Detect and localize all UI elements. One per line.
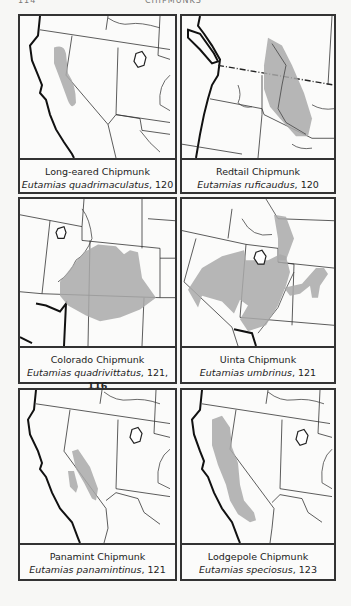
- map-svg: [20, 390, 175, 543]
- map-caption: Long-eared Chipmunk Eutamias quadrimacul…: [20, 158, 175, 192]
- range-map-panel-long-eared: Long-eared Chipmunk Eutamias quadrimacul…: [18, 14, 177, 194]
- common-name: Uinta Chipmunk: [182, 353, 334, 366]
- common-name: Colorado Chipmunk: [20, 353, 175, 366]
- scientific-name-line: Eutamias quadrimaculatus, 120: [20, 178, 175, 191]
- range-map: [20, 199, 175, 346]
- scientific-name: Eutamias umbrinus: [200, 367, 292, 378]
- range-map-panel-uinta: Uinta Chipmunk Eutamias umbrinus, 121: [180, 197, 336, 384]
- scientific-name: Eutamias panamintinus: [29, 564, 141, 575]
- scientific-name-line: Eutamias panamintinus, 121: [20, 563, 175, 576]
- map-svg: [182, 16, 334, 158]
- common-name: Panamint Chipmunk: [20, 550, 175, 563]
- range-map-panel-colorado: Colorado Chipmunk Eutamias quadrivittatu…: [18, 197, 177, 384]
- map-svg: [20, 199, 175, 346]
- map-caption: Uinta Chipmunk Eutamias umbrinus, 121: [182, 346, 334, 382]
- page-refs: , 120: [149, 179, 173, 190]
- scientific-name: Eutamias quadrimaculatus: [22, 179, 149, 190]
- common-name: Lodgepole Chipmunk: [182, 550, 334, 563]
- common-name: Redtail Chipmunk: [182, 165, 334, 178]
- page-header: 114 CHIPMUNKS: [0, 0, 351, 6]
- range-map-panel-lodgepole: Lodgepole Chipmunk Eutamias speciosus, 1…: [180, 388, 336, 581]
- map-caption: Redtail Chipmunk Eutamias ruficaudus, 12…: [182, 158, 334, 192]
- common-name: Long-eared Chipmunk: [20, 165, 175, 178]
- range-map: [20, 390, 175, 543]
- map-svg: [182, 390, 334, 543]
- range-map: [182, 16, 334, 158]
- page-title: CHIPMUNKS: [145, 0, 202, 5]
- range-map: [182, 390, 334, 543]
- map-caption: Colorado Chipmunk Eutamias quadrivittatu…: [20, 346, 175, 382]
- scientific-name: Eutamias quadrivittatus: [27, 367, 141, 378]
- page-refs: , 121: [142, 564, 166, 575]
- page-number: 114: [18, 0, 36, 5]
- map-svg: [20, 16, 175, 158]
- map-caption: Panamint Chipmunk Eutamias panamintinus,…: [20, 543, 175, 579]
- range-map: [20, 16, 175, 158]
- range-map: [182, 199, 334, 346]
- map-svg: [182, 199, 334, 346]
- range-map-panel-redtail: Redtail Chipmunk Eutamias ruficaudus, 12…: [180, 14, 336, 194]
- scientific-name-line: Eutamias umbrinus, 121: [182, 366, 334, 379]
- scientific-name: Eutamias speciosus: [199, 564, 293, 575]
- scientific-name-line: Eutamias ruficaudus, 120: [182, 178, 334, 191]
- page-refs: , 121: [292, 367, 316, 378]
- page-refs: , 123: [293, 564, 317, 575]
- map-caption: Lodgepole Chipmunk Eutamias speciosus, 1…: [182, 543, 334, 579]
- scientific-name-line: Eutamias speciosus, 123: [182, 563, 334, 576]
- page-refs: , 121,: [141, 367, 168, 378]
- scientific-name: Eutamias ruficaudus: [197, 179, 294, 190]
- page-refs: , 120: [295, 179, 319, 190]
- range-map-panel-panamint: Panamint Chipmunk Eutamias panamintinus,…: [18, 388, 177, 581]
